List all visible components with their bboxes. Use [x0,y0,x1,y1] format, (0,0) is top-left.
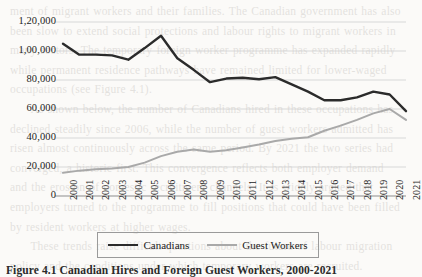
series-lines [63,36,406,173]
chart-legend: Canadians Guest Workers [97,232,319,258]
x-tick-label: 2016 [329,180,340,200]
legend-item-guest-workers: Guest Workers [207,239,307,251]
x-tick-label: 2009 [215,180,226,200]
legend-label-guest-workers: Guest Workers [242,239,307,251]
x-tick-label: 2004 [133,180,144,200]
y-tick-label: 60,000 [4,102,56,113]
gridlines [55,22,406,196]
y-tick-label: 20,000 [4,160,56,171]
y-tick-label: 80,000 [4,73,56,84]
x-tick-label: 2013 [280,180,291,200]
figure-caption: Figure 4.1 Canadian Hires and Foreign Gu… [6,264,408,277]
x-tick-label: 2008 [198,180,209,200]
x-tick-label: 2014 [296,180,307,200]
x-tick-label: 2021 [411,180,422,200]
x-tick-label: 2003 [117,180,128,200]
x-tick-label: 2002 [100,180,111,200]
legend-item-canadians: Canadians [108,239,189,251]
legend-swatch-canadians [108,244,138,246]
legend-label-canadians: Canadians [143,239,189,251]
y-tick-label: 40,000 [4,131,56,142]
x-tick-label: 2020 [394,180,405,200]
x-tick-label: 2018 [362,180,373,200]
x-tick-label: 2010 [231,180,242,200]
x-tick-label: 2019 [378,180,389,200]
x-tick-label: 2005 [149,180,160,200]
y-tick-label: 1,00,000 [4,44,56,55]
legend-swatch-guest-workers [207,244,237,246]
x-tick-label: 2000 [68,180,79,200]
y-tick-label: 0 [4,189,56,200]
x-tick-label: 2011 [247,180,258,200]
x-tick-label: 2007 [182,180,193,200]
x-tick-label: 2012 [264,180,275,200]
y-tick-label: 1,20,000 [4,15,56,26]
x-tick-label: 2001 [84,180,95,200]
series-line-canadians [63,36,406,111]
x-tick-label: 2017 [345,180,356,200]
x-tick-label: 2015 [313,180,324,200]
series-line-guest-workers [63,109,406,173]
x-tick-label: 2006 [166,180,177,200]
